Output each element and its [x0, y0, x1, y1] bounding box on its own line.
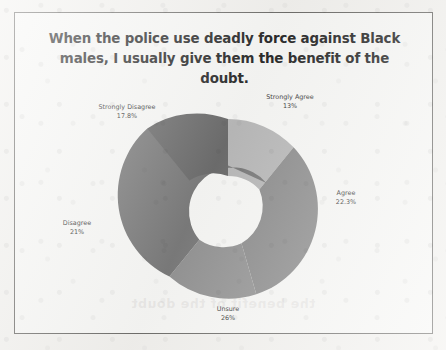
slice-label-unsure: Unsure 26%: [192, 305, 264, 323]
donut-chart-svg: [15, 13, 434, 335]
slice-label-strongly-disagree-name: Strongly Disagree: [98, 103, 155, 111]
slice-label-disagree-value: 21%: [41, 228, 113, 237]
slice-label-strongly-agree-value: 13%: [247, 102, 333, 111]
slice-label-unsure-name: Unsure: [217, 305, 240, 313]
chart-card: When the police use deadly force against…: [14, 12, 433, 334]
slice-label-disagree: Disagree 21%: [41, 219, 113, 237]
slice-label-agree-name: Agree: [337, 189, 356, 197]
donut-chart: Strongly Agree 13% Agree 22.3% Unsure 26…: [15, 13, 434, 335]
slice-label-agree: Agree 22.3%: [315, 189, 377, 207]
slice-label-strongly-disagree-value: 17.8%: [79, 112, 175, 121]
slice-label-unsure-value: 26%: [192, 314, 264, 323]
slice-label-disagree-name: Disagree: [63, 219, 91, 227]
slice-label-strongly-agree-name: Strongly Agree: [266, 93, 313, 101]
slice-label-strongly-agree: Strongly Agree 13%: [247, 93, 333, 111]
slice-label-agree-value: 22.3%: [315, 198, 377, 207]
slice-label-strongly-disagree: Strongly Disagree 17.8%: [79, 103, 175, 121]
